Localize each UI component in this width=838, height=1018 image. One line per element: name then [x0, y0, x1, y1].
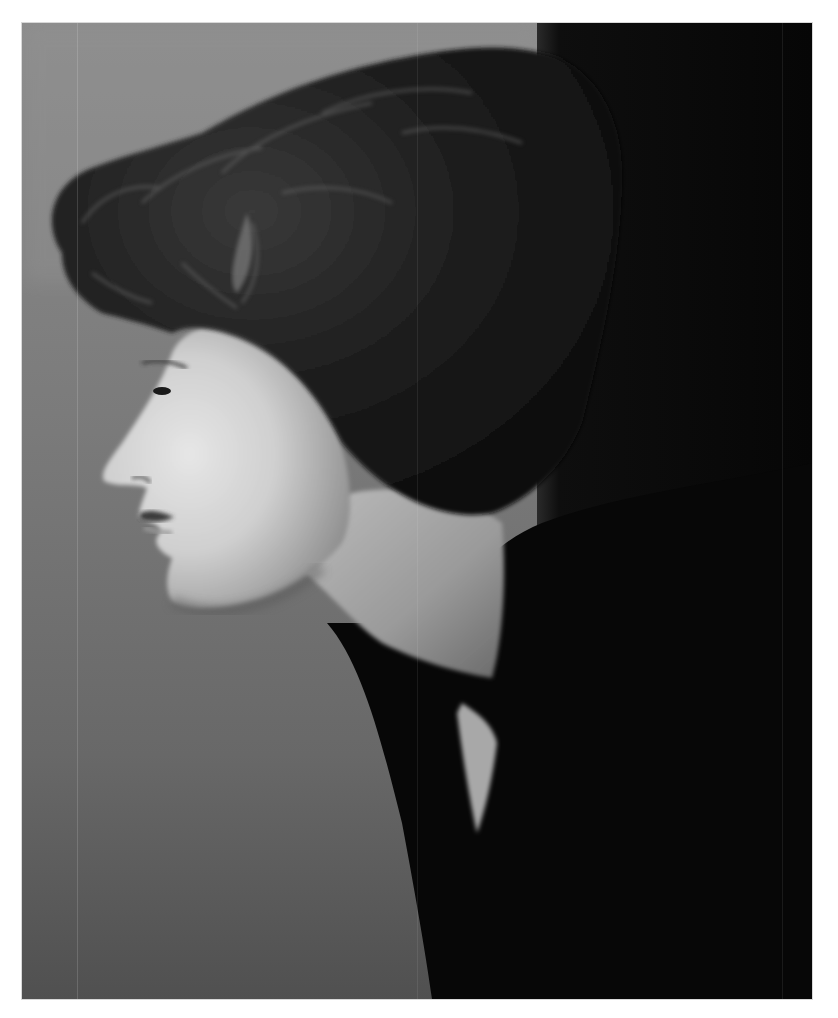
page	[0, 0, 838, 1018]
eye	[153, 387, 171, 395]
portrait-photograph	[22, 23, 812, 999]
portrait-illustration	[22, 23, 812, 999]
